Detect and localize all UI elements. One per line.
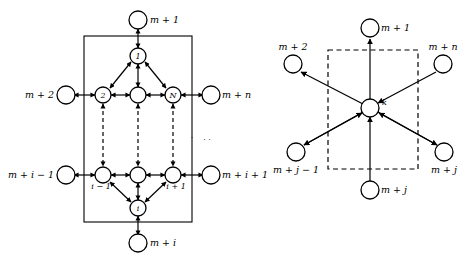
ext-node-top-label: m + 1 — [150, 14, 179, 25]
edge-node-ip1-node-i — [145, 182, 166, 202]
node-i-minus-1-circle[interactable] — [95, 167, 111, 183]
edge-k-to-upper-left — [301, 72, 363, 104]
ext-node-bottom-circle[interactable] — [129, 234, 147, 252]
left-network-panel: · · · 1 2 N i − 1 i + 1 i — [8, 11, 268, 252]
ext-node-left-lower-label: m + i − 1 — [8, 169, 54, 180]
diagram-canvas: · · · 1 2 N i − 1 i + 1 i — [0, 0, 468, 265]
ext-node-right-lower-label: m + i + 1 — [222, 169, 268, 180]
figure-root: · · · 1 2 N i − 1 i + 1 i — [0, 0, 468, 265]
r-ext-upper-right-label: m + n — [428, 41, 457, 52]
ellipsis-mark-2: · · — [203, 135, 211, 144]
node-i-plus-1-circle[interactable] — [165, 167, 181, 183]
r-ext-top-label: m + 1 — [381, 22, 410, 33]
r-ext-top-circle[interactable] — [361, 19, 379, 37]
node-1-label: 1 — [135, 52, 140, 61]
ext-node-left-upper-circle[interactable] — [57, 86, 75, 104]
node-k-circle[interactable] — [361, 99, 379, 117]
node-i-minus-1-label: i − 1 — [91, 182, 110, 191]
edge-lower-right-to-k — [379, 113, 437, 145]
ext-node-right-upper-circle[interactable] — [202, 86, 220, 104]
r-ext-bottom-label: m + j — [381, 184, 407, 195]
ellipsis-mark-1: · — [191, 133, 194, 142]
node-k-label: k — [382, 98, 387, 107]
r-ext-lower-left-label: m + j − 1 — [273, 164, 319, 175]
r-ext-lower-left-circle[interactable] — [287, 143, 305, 161]
ext-node-top-circle[interactable] — [129, 11, 147, 29]
edge-node-im1-node-i — [110, 182, 131, 202]
r-ext-upper-left-circle[interactable] — [284, 55, 302, 73]
ext-node-left-upper-label: m + 2 — [25, 89, 54, 100]
node-i-label: i — [137, 204, 140, 213]
r-ext-upper-right-circle[interactable] — [434, 55, 452, 73]
r-ext-lower-right-label: m + j — [431, 164, 457, 175]
edge-lower-left-to-k — [304, 113, 362, 145]
r-ext-lower-right-circle[interactable] — [435, 143, 453, 161]
node-center-upper-circle[interactable] — [130, 87, 146, 103]
node-center-lower-circle[interactable] — [130, 167, 146, 183]
node-N-label: N — [169, 91, 178, 100]
right-star-panel: k m + 1 m + 2 m + n m + j − 1 m + j m + … — [273, 19, 458, 199]
r-ext-bottom-circle[interactable] — [361, 181, 379, 199]
ext-node-right-upper-label: m + n — [222, 89, 251, 100]
edge-node1-nodeN — [145, 62, 166, 88]
node-2-label: 2 — [99, 91, 105, 100]
ext-node-bottom-label: m + i — [150, 237, 176, 248]
ext-node-right-lower-circle[interactable] — [202, 166, 220, 184]
r-ext-upper-left-label: m + 2 — [278, 41, 307, 52]
node-i-plus-1-label: i + 1 — [166, 182, 185, 191]
ext-node-left-lower-circle[interactable] — [57, 166, 75, 184]
edge-node1-node2 — [110, 62, 131, 88]
